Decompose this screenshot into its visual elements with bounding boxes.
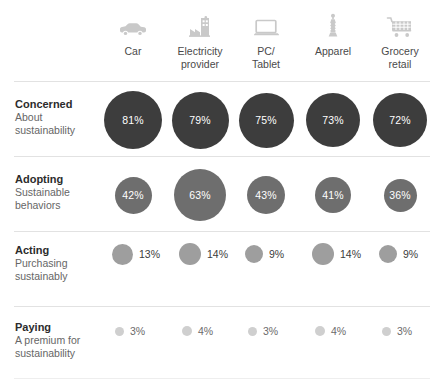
bubble[interactable] [115, 327, 124, 336]
bubble[interactable] [382, 327, 391, 336]
bubble-cell[interactable]: 73% [300, 84, 366, 156]
bubble[interactable] [245, 245, 263, 263]
bubble[interactable] [315, 326, 325, 336]
bubble-cell[interactable]: 63% [167, 159, 233, 231]
bubble[interactable]: 72% [373, 93, 427, 147]
bubble-value: 63% [189, 189, 210, 201]
column-header-car: Car [100, 12, 166, 58]
bubble-cell[interactable]: 13% [110, 222, 176, 286]
row-label-acting: Acting Purchasing sustainably [15, 243, 120, 283]
row-divider [14, 156, 430, 157]
column-header-label: Electricity provider [167, 45, 233, 70]
bubble-cell[interactable]: 14% [310, 222, 376, 286]
bubble[interactable] [182, 326, 192, 336]
bubble-cell[interactable]: 9% [243, 222, 309, 286]
bubble[interactable]: 42% [115, 177, 152, 214]
bubble-value: 41% [322, 189, 343, 201]
bubble-cell[interactable]: 41% [300, 159, 366, 231]
row-title: Paying [15, 320, 120, 334]
row-title: Acting [15, 243, 120, 257]
bubble-cell[interactable]: 75% [233, 84, 299, 156]
bubble-value: 42% [122, 189, 143, 201]
bubble[interactable]: 81% [104, 91, 162, 149]
bubble-cell[interactable]: 81% [100, 84, 166, 156]
metric-row-concerned: Concerned About sustainability 81% 79% 7… [0, 84, 444, 156]
metric-row-adopting: Adopting Sustainable behaviors 42% 63% 4… [0, 159, 444, 231]
car-icon [100, 12, 166, 38]
bubble-cell[interactable]: 4% [313, 299, 379, 363]
bubble-value: 75% [255, 114, 276, 126]
bubble[interactable] [312, 243, 334, 265]
metric-row-paying: Paying A premium for sustainability 3% 4… [0, 309, 444, 373]
bubble[interactable]: 79% [172, 92, 229, 149]
bubble-cell[interactable]: 42% [100, 159, 166, 231]
bubble-cell[interactable]: 36% [367, 159, 433, 231]
bubble-value: 3% [263, 325, 278, 337]
bubble[interactable] [112, 244, 133, 265]
laptop-icon [233, 12, 299, 38]
column-header-label: Apparel [300, 45, 366, 58]
bubble[interactable]: 63% [174, 169, 226, 221]
dress-icon [300, 12, 366, 38]
bubble[interactable]: 73% [306, 93, 360, 147]
sustainability-bubble-chart: Car Electricity provider [0, 0, 444, 385]
column-header-label: Car [100, 45, 166, 58]
column-header-label: PC/ Tablet [233, 45, 299, 70]
bubble-value: 9% [403, 248, 418, 260]
metric-row-acting: Acting Purchasing sustainably 13% 14% 9%… [0, 234, 444, 298]
bubble[interactable] [379, 245, 397, 263]
bubble[interactable] [248, 327, 257, 336]
bubble-value: 73% [322, 114, 343, 126]
bubble-cell[interactable]: 14% [177, 222, 243, 286]
bubble-value: 4% [198, 325, 213, 337]
bubble-value: 43% [255, 189, 276, 201]
factory-icon [167, 12, 233, 38]
bubble-cell[interactable]: 3% [380, 299, 444, 363]
bubble-cell[interactable]: 3% [246, 299, 312, 363]
bubble-value: 3% [130, 325, 145, 337]
bubble-value: 14% [207, 248, 228, 260]
column-header-row: Car Electricity provider [0, 0, 444, 80]
bubble[interactable] [179, 243, 201, 265]
bubble-value: 72% [389, 114, 410, 126]
bubble-value: 3% [397, 325, 412, 337]
bubble-cell[interactable]: 4% [180, 299, 246, 363]
bubble-value: 13% [139, 248, 160, 260]
row-subtitle: Purchasing sustainably [15, 257, 120, 283]
column-header-electricity-provider: Electricity provider [167, 12, 233, 70]
bubble[interactable]: 75% [239, 93, 294, 148]
bubble-value: 9% [269, 248, 284, 260]
bubble-value: 81% [122, 114, 143, 126]
row-label-paying: Paying A premium for sustainability [15, 320, 120, 360]
column-header-apparel: Apparel [300, 12, 366, 58]
bubble[interactable]: 41% [315, 177, 351, 213]
row-subtitle: A premium for sustainability [15, 334, 120, 360]
row-divider [14, 81, 430, 82]
bubble-cell[interactable]: 9% [377, 222, 443, 286]
shopping-cart-icon [367, 12, 433, 38]
row-divider [14, 378, 430, 379]
bubble[interactable]: 43% [247, 176, 285, 214]
bubble[interactable]: 36% [384, 179, 417, 212]
column-header-label: Grocery retail [367, 45, 433, 70]
bubble-cell[interactable]: 72% [367, 84, 433, 156]
bubble-cell[interactable]: 79% [167, 84, 233, 156]
bubble-value: 4% [331, 325, 346, 337]
bubble-cell[interactable]: 43% [233, 159, 299, 231]
column-header-grocery-retail: Grocery retail [367, 12, 433, 70]
column-header-pc-tablet: PC/ Tablet [233, 12, 299, 70]
bubble-cell[interactable]: 3% [113, 299, 179, 363]
bubble-value: 36% [389, 189, 410, 201]
bubble-value: 14% [340, 248, 361, 260]
bubble-value: 79% [189, 114, 210, 126]
